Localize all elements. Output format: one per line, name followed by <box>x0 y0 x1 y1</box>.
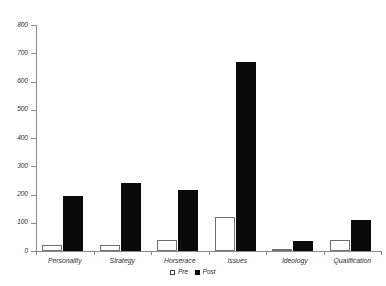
x-axis-tick <box>36 251 37 255</box>
bar-horserace-post <box>178 190 198 251</box>
bar-issues-pre <box>215 217 235 251</box>
bar-group <box>209 25 267 251</box>
bar-personality-post <box>63 196 83 251</box>
legend-label-post: Post <box>203 269 216 276</box>
bar-qualification-pre <box>330 240 350 251</box>
bar-ideology-pre <box>272 249 292 251</box>
y-axis-tick-label: 300 <box>2 163 28 170</box>
y-axis-tick-label: 500 <box>2 106 28 113</box>
x-axis-tick <box>151 251 152 255</box>
x-axis-tick <box>209 251 210 255</box>
bar-group <box>151 25 209 251</box>
y-axis-tick-label: 600 <box>2 78 28 85</box>
bar-horserace-pre <box>157 240 177 251</box>
x-axis-tick <box>94 251 95 255</box>
bar-qualification-post <box>351 220 371 251</box>
x-axis-label-personality: Personality <box>36 258 94 265</box>
bar-issues-post <box>236 62 256 251</box>
bar-strategy-pre <box>100 245 120 251</box>
x-axis-label-strategy: Strategy <box>94 258 152 265</box>
x-axis-label-horserace: Horserace <box>151 258 209 265</box>
x-axis-label-issues: Issues <box>209 258 267 265</box>
x-axis-label-ideology: Ideology <box>266 258 324 265</box>
y-axis-tick-label: 700 <box>2 50 28 57</box>
bar-chart: 0100200300400500600700800 PersonalityStr… <box>0 0 386 286</box>
x-axis-tick <box>266 251 267 255</box>
bar-group <box>324 25 382 251</box>
bar-group <box>266 25 324 251</box>
legend-label-pre: Pre <box>178 269 188 276</box>
y-axis-tick-label: 200 <box>2 191 28 198</box>
bar-strategy-post <box>121 183 141 251</box>
filled-square-icon <box>195 270 200 275</box>
hollow-square-icon <box>170 270 175 275</box>
y-axis-tick-label: 0 <box>2 248 28 255</box>
plot-area <box>36 25 381 251</box>
x-axis-tick <box>324 251 325 255</box>
bar-group <box>94 25 152 251</box>
y-axis-tick-label: 400 <box>2 135 28 142</box>
bar-personality-pre <box>42 245 62 251</box>
y-axis-tick-label: 800 <box>2 22 28 29</box>
bar-group <box>36 25 94 251</box>
bar-ideology-post <box>293 241 313 251</box>
legend-item-pre: Pre <box>170 269 188 276</box>
chart-legend: Pre Post <box>0 269 386 276</box>
y-axis-tick-label: 100 <box>2 219 28 226</box>
x-axis-label-qualification: Qualification <box>324 258 382 265</box>
x-axis-tick <box>381 251 382 255</box>
legend-item-post: Post <box>195 269 216 276</box>
